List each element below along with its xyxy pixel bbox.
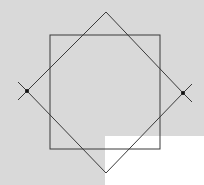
geometry-diagram — [0, 0, 204, 185]
left-point — [25, 89, 29, 93]
blank-region — [105, 136, 204, 185]
right-point — [181, 91, 185, 95]
